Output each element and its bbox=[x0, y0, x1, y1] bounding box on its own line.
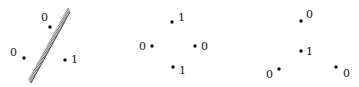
point-label: 0 bbox=[343, 67, 350, 80]
diagram-canvas: 001 1001 0100 bbox=[0, 0, 359, 87]
data-point bbox=[277, 67, 280, 70]
point-label: 0 bbox=[201, 40, 208, 53]
panel-triangle-with-center: 0100 bbox=[266, 8, 350, 81]
point-label: 1 bbox=[178, 11, 185, 24]
data-point bbox=[63, 58, 66, 61]
point-label: 0 bbox=[139, 40, 146, 53]
data-point bbox=[193, 44, 196, 47]
data-point bbox=[150, 44, 153, 47]
data-point bbox=[48, 25, 51, 28]
point-label: 1 bbox=[179, 64, 186, 77]
point-label: 0 bbox=[41, 11, 48, 24]
data-point bbox=[171, 65, 174, 68]
point-label: 0 bbox=[306, 8, 313, 21]
data-point bbox=[334, 65, 337, 68]
separator-line bbox=[31, 12, 70, 83]
data-point bbox=[170, 20, 173, 23]
point-label: 0 bbox=[10, 46, 17, 59]
hatched-separator-line bbox=[29, 8, 70, 83]
point-label: 1 bbox=[306, 45, 313, 58]
panel-diamond-configuration: 1001 bbox=[139, 11, 208, 77]
point-label: 1 bbox=[71, 53, 78, 66]
data-point bbox=[299, 19, 302, 22]
data-point bbox=[299, 49, 302, 52]
point-label: 0 bbox=[266, 68, 273, 81]
data-point bbox=[22, 56, 25, 59]
